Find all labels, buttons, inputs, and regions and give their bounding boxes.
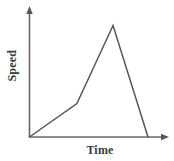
y-axis-arrow-icon <box>26 6 32 14</box>
x-axis-label: Time <box>60 143 140 158</box>
x-axis-arrow-icon <box>161 134 169 140</box>
speed-curve <box>30 26 149 138</box>
speed-time-chart: Speed Time <box>0 0 174 161</box>
chart-plot-area <box>0 0 174 161</box>
y-axis-label: Speed <box>5 58 20 82</box>
